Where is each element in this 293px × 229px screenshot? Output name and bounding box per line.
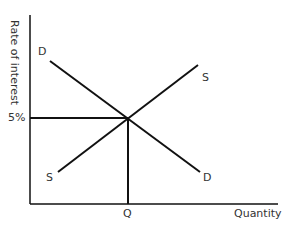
supply-label-top: S	[202, 72, 209, 84]
y-axis-label: Rate of interest	[8, 19, 21, 107]
diagram-canvas	[0, 0, 293, 229]
demand-label-top: D	[38, 46, 46, 58]
demand-curve	[50, 61, 200, 172]
x-axis-label: Quantity	[234, 208, 282, 220]
supply-label-bottom: S	[46, 172, 53, 184]
equilibrium-rate-label: 5%	[8, 112, 25, 124]
demand-label-bottom: D	[203, 172, 211, 184]
equilibrium-quantity-label: Q	[123, 208, 132, 220]
supply-demand-diagram: Rate of interest D S 5% S D Q Quantity	[0, 0, 293, 229]
